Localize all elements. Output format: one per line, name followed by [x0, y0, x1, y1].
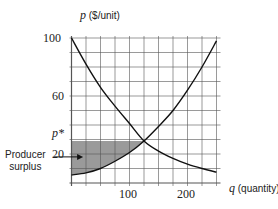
- annotation-line-2: surplus: [5, 161, 46, 173]
- producer-surplus-region: [72, 141, 145, 175]
- y-tick-60: 60: [52, 89, 64, 104]
- x-axis-variable: q: [229, 181, 235, 195]
- p-star-label: p*: [52, 126, 64, 141]
- annotation-line-1: Producer: [5, 149, 46, 161]
- y-axis-variable: p: [80, 8, 86, 22]
- x-axis-unit: (quantity): [238, 183, 278, 194]
- chart-canvas: [0, 0, 278, 209]
- y-tick-20: 20: [52, 147, 64, 162]
- x-tick-100: 100: [119, 187, 137, 202]
- producer-surplus-annotation: Producer surplus: [5, 149, 46, 173]
- x-tick-200: 200: [177, 187, 195, 202]
- x-axis-title: q (quantity): [229, 181, 278, 196]
- y-axis-unit: ($/unit): [89, 10, 120, 21]
- y-axis-title: p ($/unit): [80, 8, 120, 23]
- y-tick-100: 100: [43, 31, 61, 46]
